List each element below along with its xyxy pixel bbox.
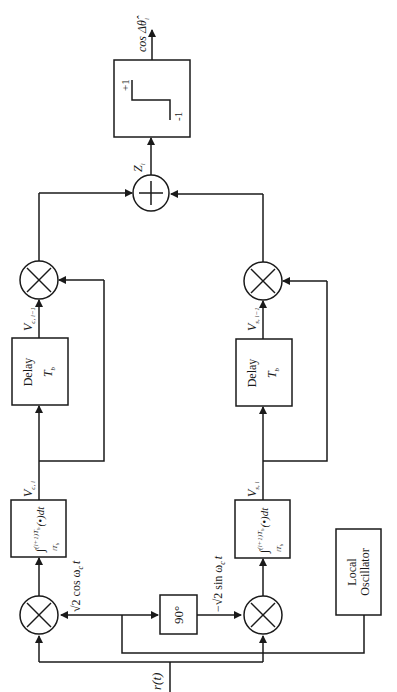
block-diagram: r(t) Local Oscillator 90° √2 cos ωct −√2… [0, 0, 397, 692]
summer [133, 175, 169, 211]
multiplier-cos [20, 596, 58, 634]
vsi-label: Vs, i [245, 481, 261, 497]
multiplier-sin [244, 596, 282, 634]
multiplier-cos-delayed [20, 261, 58, 299]
lo-bus [61, 615, 364, 653]
limiter-low-label: -1 [172, 112, 184, 121]
sin-carrier-label: −√2 sin ωct [211, 555, 227, 612]
vsi-1-label: Vs, i−1 [245, 307, 261, 331]
local-oscillator-label-1: Local [345, 558, 359, 586]
vci-label: Vc, i [21, 481, 37, 497]
local-oscillator-label-2: Oscillator [358, 548, 372, 595]
delay-sin-label: Delay [245, 359, 259, 388]
vci-1-label: Vc, i−1 [21, 307, 37, 331]
z-label: Zi [131, 163, 147, 172]
cos-carrier-label: √2 cos ωct [69, 560, 85, 612]
hard-limiter-box [114, 60, 190, 137]
output-label: cos Δθ̂i [135, 15, 151, 52]
input-label: r(t) [149, 673, 164, 690]
limiter-high-label: +1 [119, 79, 131, 91]
phase-shifter-label: 90° [171, 606, 186, 624]
multiplier-sin-delayed [244, 262, 282, 300]
delay-cos-label: Delay [21, 358, 35, 387]
